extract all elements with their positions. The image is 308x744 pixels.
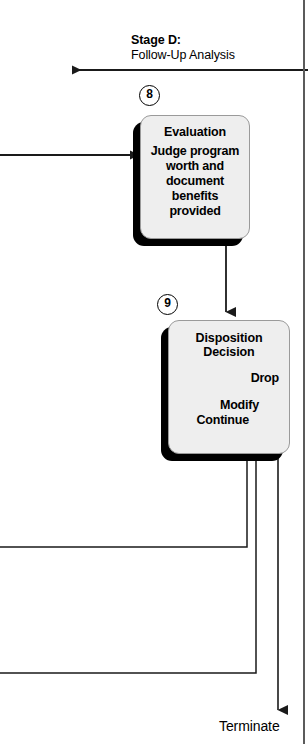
stage-title: Stage D: [131,33,181,47]
terminate-label: Terminate [219,718,280,734]
evaluation-body: Judge program worth and document benefit… [146,144,244,219]
evaluation-title: Evaluation [164,125,226,139]
step-number-8: 8 [139,85,160,106]
disposition-title-line2: Decision [177,345,281,359]
page-edge-rule [303,0,305,744]
stage-subtitle: Follow-Up Analysis [131,48,235,62]
flowchart-canvas: Stage D: Follow-Up Analysis 8 Evaluation… [0,0,308,744]
disposition-option-drop[interactable]: Drop [177,371,281,385]
process-box-disposition-decision[interactable]: Disposition Decision Drop Modify Continu… [168,320,290,454]
disposition-option-modify[interactable]: Modify [177,398,281,412]
step-number-9: 9 [157,294,178,315]
process-box-evaluation[interactable]: Evaluation Judge program worth and docum… [140,115,250,239]
disposition-title-line1: Disposition [177,331,281,345]
disposition-option-continue[interactable]: Continue [177,413,281,427]
